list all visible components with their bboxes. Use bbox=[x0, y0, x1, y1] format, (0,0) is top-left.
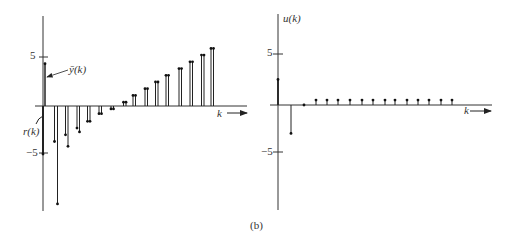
stem-marker bbox=[384, 99, 387, 102]
stem-marker bbox=[394, 99, 397, 102]
r-label: r(k) bbox=[23, 125, 40, 137]
stem-marker bbox=[315, 99, 318, 102]
stem-marker bbox=[76, 127, 79, 130]
left-stem-series bbox=[42, 47, 215, 205]
stem-marker bbox=[157, 81, 160, 84]
right-plot-axes bbox=[270, 14, 492, 210]
stem-marker bbox=[89, 120, 92, 123]
stem-marker bbox=[146, 87, 149, 90]
left-ytick-neg5: −5 bbox=[26, 146, 38, 158]
stem-marker bbox=[53, 140, 56, 143]
stem-marker bbox=[154, 81, 157, 84]
stem-marker bbox=[326, 99, 329, 102]
stem-marker bbox=[56, 203, 59, 206]
left-ytick-5: 5 bbox=[30, 49, 36, 61]
stem-marker bbox=[110, 107, 113, 110]
stem-marker bbox=[290, 132, 293, 135]
stem-marker bbox=[165, 74, 168, 77]
stem-marker bbox=[112, 107, 115, 110]
stem-marker bbox=[100, 112, 103, 115]
stem-marker bbox=[44, 62, 47, 65]
stem-marker bbox=[417, 99, 420, 102]
stem-marker bbox=[203, 54, 206, 57]
stem-marker bbox=[440, 99, 443, 102]
stem-marker bbox=[406, 99, 409, 102]
stem-marker bbox=[349, 99, 352, 102]
stem-marker bbox=[189, 60, 192, 63]
stem-marker bbox=[451, 99, 454, 102]
right-stem-series bbox=[277, 78, 454, 135]
stem-marker bbox=[144, 87, 147, 90]
left-plot-axes bbox=[35, 16, 247, 211]
stem-marker bbox=[372, 99, 375, 102]
stem-marker bbox=[277, 78, 280, 81]
right-ytick-5: 5 bbox=[267, 46, 273, 58]
stem-marker bbox=[178, 67, 181, 70]
stem-marker bbox=[78, 131, 81, 134]
stem-marker bbox=[180, 67, 183, 70]
stem-marker bbox=[132, 94, 135, 97]
stem-marker bbox=[167, 74, 170, 77]
left-k-axis-label: k bbox=[217, 107, 222, 119]
figure-canvas bbox=[0, 0, 516, 241]
stem-marker bbox=[200, 54, 203, 57]
stem-marker bbox=[428, 99, 431, 102]
ybar-label: ȳ(k) bbox=[69, 63, 86, 75]
stem-marker bbox=[64, 133, 67, 136]
right-ytick-neg5: −5 bbox=[261, 145, 273, 157]
stem-marker bbox=[303, 104, 306, 107]
stem-marker bbox=[86, 120, 89, 123]
stem-marker bbox=[361, 99, 364, 102]
stem-marker bbox=[212, 47, 215, 50]
stem-marker bbox=[134, 94, 137, 97]
stem-marker bbox=[67, 145, 70, 148]
stem-marker bbox=[42, 153, 45, 156]
stem-marker bbox=[337, 99, 340, 102]
u-axis-label: u(k) bbox=[283, 12, 301, 24]
stem-marker bbox=[125, 101, 128, 104]
figure-caption: (b) bbox=[250, 219, 263, 231]
stem-marker bbox=[122, 101, 125, 104]
stem-marker bbox=[210, 47, 213, 50]
stem-marker bbox=[98, 112, 101, 115]
right-k-axis-label: k bbox=[464, 104, 469, 116]
stem-marker bbox=[191, 60, 194, 63]
